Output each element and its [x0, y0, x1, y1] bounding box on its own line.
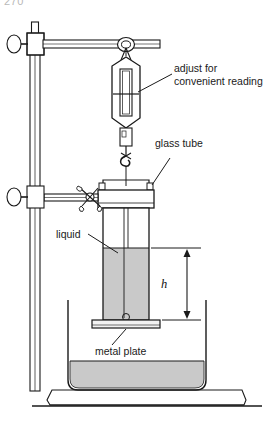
metal-plate [92, 320, 160, 328]
label-metal-plate: metal plate [95, 345, 146, 358]
upper-clamp-knob [7, 35, 28, 53]
lower-clamp [27, 186, 44, 208]
upper-clamp [27, 33, 44, 55]
physics-diagram-figure: 270 [0, 0, 265, 430]
label-liquid: liquid [56, 228, 81, 241]
label-adjust-for-convenient-reading: adjust for convenient reading [174, 62, 263, 87]
tube-collar [98, 190, 154, 208]
hook [120, 128, 132, 186]
horizontal-arm [43, 40, 160, 48]
dimension-h [151, 248, 201, 320]
label-glass-tube: glass tube [155, 137, 203, 150]
spring-balance [112, 57, 140, 128]
glass-tube [103, 208, 149, 321]
stand-base [32, 390, 262, 406]
liquid-column [103, 248, 149, 320]
label-height-h: h [161, 277, 167, 292]
beaker-liquid [70, 361, 204, 388]
lower-clamp-knob [7, 188, 28, 206]
